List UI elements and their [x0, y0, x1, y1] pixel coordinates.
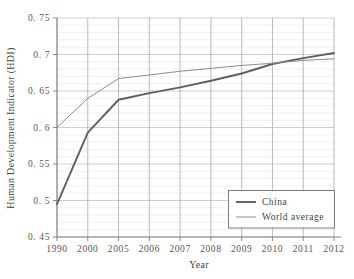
legend-label-china: China	[262, 197, 287, 207]
x-tick-label: 2012	[323, 244, 344, 254]
y-tick-label: 0. 55	[28, 159, 50, 169]
x-tick-label: 2010	[262, 244, 283, 254]
y-tick-label: 0. 45	[28, 232, 50, 242]
x-tick-label: 2009	[231, 244, 252, 254]
y-tick-label: 0. 6	[33, 123, 50, 133]
x-axis-tick-labels: 1990200020052006200720082009201020112012	[46, 244, 344, 254]
chart-figure: 0. 750. 70. 650. 60. 550. 50. 45 1990200…	[0, 0, 354, 279]
x-tick-label: 2005	[108, 244, 129, 254]
x-tick-label: 1990	[46, 244, 67, 254]
y-tick-label: 0. 7	[33, 50, 50, 60]
y-tick-label: 0. 5	[33, 196, 50, 206]
x-tick-label: 2000	[77, 244, 98, 254]
y-axis-title: Human Development Indicator (HDI)	[5, 47, 17, 208]
x-tick-label: 2007	[169, 244, 190, 254]
x-tick-label: 2011	[293, 244, 314, 254]
series-line-china	[57, 53, 334, 204]
hdi-line-chart: 0. 750. 70. 650. 60. 550. 50. 45 1990200…	[0, 0, 354, 279]
x-tick-label: 2008	[200, 244, 221, 254]
x-axis-title: Year	[189, 259, 209, 270]
chart-legend: China World average	[229, 191, 335, 229]
y-axis-tick-labels: 0. 750. 70. 650. 60. 550. 50. 45	[28, 13, 50, 242]
legend-label-world: World average	[262, 212, 324, 222]
x-tick-label: 2006	[139, 244, 160, 254]
data-series-group	[57, 53, 334, 204]
x-tick-marks	[57, 237, 334, 241]
y-tick-label: 0. 75	[28, 13, 50, 23]
y-tick-label: 0. 65	[28, 86, 50, 96]
